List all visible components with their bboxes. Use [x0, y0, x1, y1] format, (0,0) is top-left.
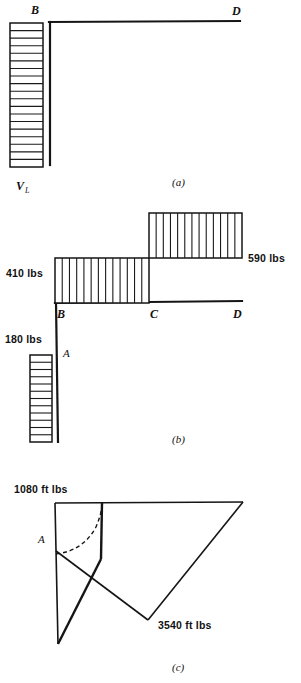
engineering-diagram: B D V L (a)	[0, 0, 301, 683]
moment-wedge-edge	[58, 559, 101, 644]
shear-bar-bc	[55, 258, 149, 303]
panel-b-node-c-label: C	[150, 307, 159, 321]
shear-bar-cd	[149, 213, 242, 258]
panel-b: 590 lbs 410 lbs 180 lbs B C D A (b)	[5, 213, 285, 446]
moment-dashed-curve	[56, 506, 102, 554]
shear-bar-ab	[30, 355, 52, 442]
moment-right-edge	[148, 502, 243, 620]
moment-a-to-lower-right	[56, 551, 148, 620]
shear-value-410-label: 410 lbs	[6, 267, 43, 279]
moment-value-1080-label: 1080 ft lbs	[14, 483, 68, 495]
panel-a-caption: (a)	[172, 176, 185, 189]
panel-b-node-a-label: A	[62, 347, 70, 359]
panel-a-reaction-vl-label: V	[16, 179, 25, 193]
panel-b-node-b-label: B	[56, 307, 65, 321]
distributed-load-block-a	[10, 23, 43, 167]
panel-b-caption: (b)	[172, 433, 185, 446]
panel-a-node-b-label: B	[30, 3, 39, 17]
panel-c-caption: (c)	[172, 661, 185, 674]
moment-left-edge	[55, 503, 58, 644]
panel-a-reaction-vl-subscript: L	[24, 186, 30, 195]
panel-c-node-a-label: A	[37, 533, 45, 545]
shear-value-590-label: 590 lbs	[248, 252, 285, 264]
panel-b-node-d-label: D	[232, 307, 242, 321]
frame-horizontal-a	[49, 21, 240, 22]
panel-a-node-d-label: D	[231, 4, 241, 18]
panel-a: B D V L (a)	[10, 3, 241, 195]
moment-top-edge	[55, 502, 243, 503]
shear-value-180-label: 180 lbs	[5, 333, 42, 345]
moment-value-3540-label: 3540 ft lbs	[158, 619, 212, 631]
panel-b-baseline-vertical	[56, 302, 58, 442]
figure-root: B D V L (a)	[0, 0, 301, 683]
panel-c: 1080 ft lbs 3540 ft lbs A (c)	[14, 483, 243, 674]
